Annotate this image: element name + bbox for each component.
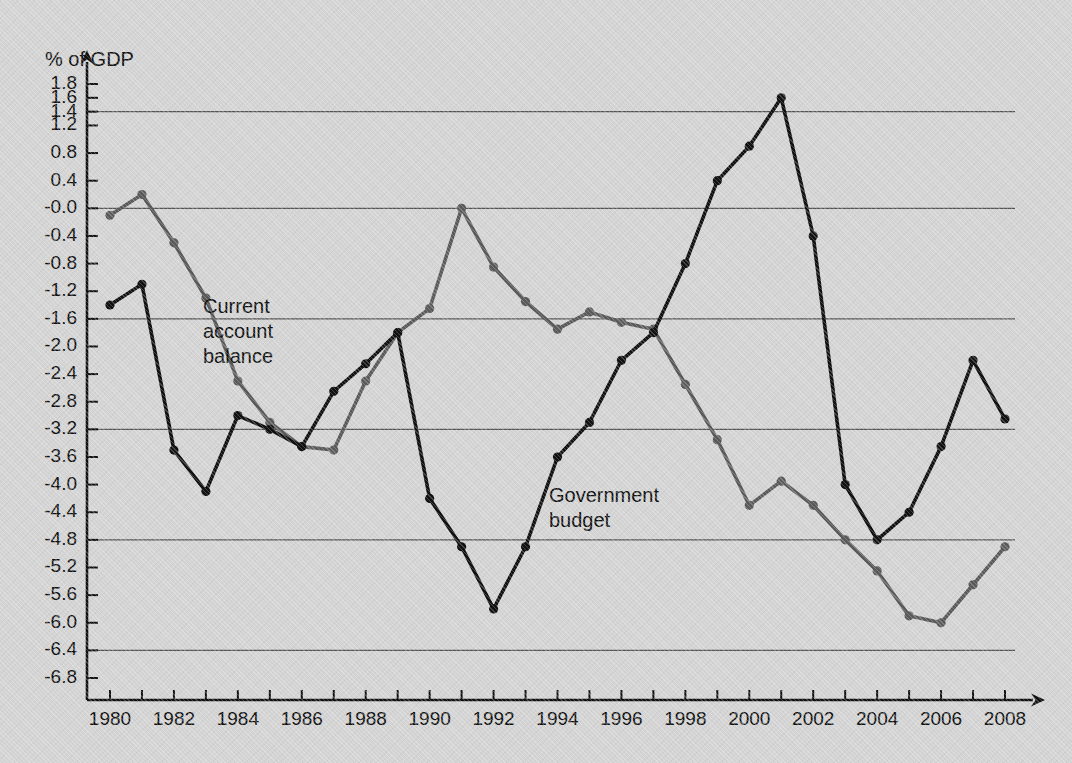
series-data-point: [968, 580, 977, 589]
series-data-point: [361, 359, 370, 368]
series-data-point: [361, 376, 370, 385]
series-data-point: [201, 487, 210, 496]
series-data-point: [809, 501, 818, 510]
series-data-point: [617, 356, 626, 365]
series-line: [110, 195, 1005, 623]
y-axis-arrow: [81, 50, 94, 64]
series-data-point: [521, 542, 530, 551]
series-data-point: [329, 387, 338, 396]
series-data-point: [553, 452, 562, 461]
series-data-point: [681, 380, 690, 389]
series-data-point: [489, 262, 498, 271]
series-data-point: [489, 604, 498, 613]
series-data-point: [681, 259, 690, 268]
y-axis-tick-label: -2.4: [44, 362, 77, 384]
y-axis-tick-label: -2.0: [44, 334, 77, 356]
y-axis-tick-label: 1.2: [51, 113, 77, 135]
series-data-point: [1000, 414, 1009, 423]
series-data-point: [968, 356, 977, 365]
series-data-point: [553, 325, 562, 334]
line-chart-canvas: [0, 0, 1072, 763]
y-axis-tick-label: -5.2: [44, 555, 77, 577]
series-data-point: [137, 280, 146, 289]
series-data-point: [425, 494, 434, 503]
series-data-point: [713, 435, 722, 444]
series-data-point: [777, 477, 786, 486]
y-axis-tick-label: -6.0: [44, 611, 77, 633]
y-axis-tick-label: -3.2: [44, 417, 77, 439]
series-data-point: [425, 304, 434, 313]
series-data-point: [936, 618, 945, 627]
series-data-point: [713, 176, 722, 185]
y-axis-tick-label: 0.4: [51, 169, 77, 191]
series-label-government-budget: Government budget: [549, 483, 659, 533]
series-data-point: [585, 307, 594, 316]
series-data-point: [329, 445, 338, 454]
series-data-point: [809, 231, 818, 240]
series-data-point: [873, 566, 882, 575]
series-data-point: [745, 142, 754, 151]
series-data-point: [137, 190, 146, 199]
y-axis-tick-label: -0.0: [44, 196, 77, 218]
series-data-point: [1000, 542, 1009, 551]
series-data-point: [105, 300, 114, 309]
series-data-point: [841, 535, 850, 544]
chart-figure: % of GDP Current account balance Governm…: [0, 0, 1072, 763]
y-axis-tick-label: -0.4: [44, 224, 77, 246]
x-axis-tick-label: 2008: [965, 708, 1045, 730]
series-data-point: [233, 376, 242, 385]
series-data-point: [617, 318, 626, 327]
y-axis-tick-label: -6.4: [44, 638, 77, 660]
x-axis-arrow: [1031, 694, 1045, 707]
y-axis-tick-label: -0.8: [44, 252, 77, 274]
y-axis-tick-label: -3.6: [44, 445, 77, 467]
series-data-point: [745, 501, 754, 510]
y-axis-tick-label: -4.0: [44, 473, 77, 495]
series-data-point: [105, 211, 114, 220]
y-axis-tick-label: -1.2: [44, 279, 77, 301]
y-axis-tick-label: -2.8: [44, 390, 77, 412]
series-data-point: [457, 204, 466, 213]
series-data-point: [936, 442, 945, 451]
y-axis-tick-label: -6.8: [44, 666, 77, 688]
series-data-point: [521, 297, 530, 306]
series-data-point: [457, 542, 466, 551]
series-data-point: [777, 93, 786, 102]
y-axis-tick-label: -4.4: [44, 500, 77, 522]
y-axis-tick-label: 0.8: [51, 141, 77, 163]
series-data-point: [873, 535, 882, 544]
series-data-point: [393, 328, 402, 337]
y-axis-tick-label: -4.8: [44, 528, 77, 550]
series-data-point: [265, 425, 274, 434]
y-axis-tick-label: -1.6: [44, 307, 77, 329]
series-data-point: [169, 445, 178, 454]
series-data-point: [905, 508, 914, 517]
series-data-point: [585, 418, 594, 427]
series-data-point: [905, 611, 914, 620]
series-data-point: [169, 238, 178, 247]
series-label-current-account: Current account balance: [203, 294, 273, 369]
series-data-point: [297, 442, 306, 451]
series-data-point: [233, 411, 242, 420]
series-data-point: [649, 328, 658, 337]
y-axis-tick-label: -5.6: [44, 583, 77, 605]
series-data-point: [841, 480, 850, 489]
